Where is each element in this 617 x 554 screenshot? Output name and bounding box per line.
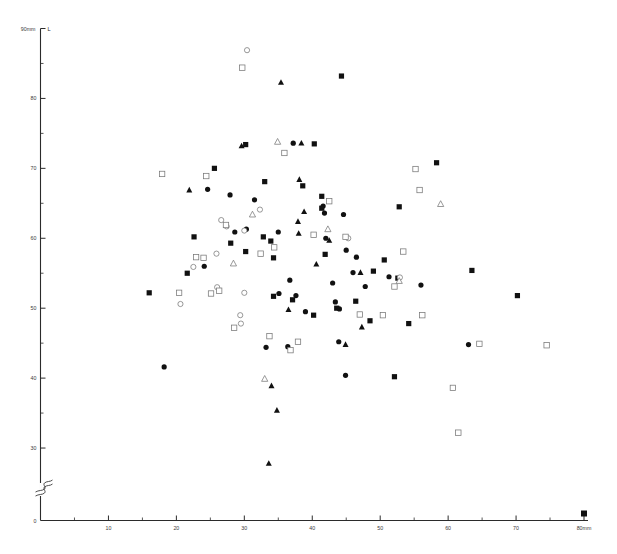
data-point: [178, 301, 183, 306]
series-filled-triangle: [186, 79, 365, 466]
data-point: [238, 313, 243, 318]
series-open-triangle: [230, 138, 443, 381]
data-point: [212, 166, 217, 171]
data-point: [262, 179, 267, 184]
data-point: [392, 284, 397, 289]
data-point: [363, 284, 368, 289]
data-point: [274, 407, 280, 413]
data-point: [243, 142, 248, 147]
data-point: [243, 249, 248, 254]
data-point: [240, 65, 245, 70]
data-point: [420, 312, 425, 317]
y-tick-label: 60: [31, 235, 37, 241]
x-tick-label: 40: [309, 525, 315, 531]
data-point: [336, 339, 341, 344]
data-point: [300, 183, 305, 188]
y-axis-break-symbol-2: [36, 480, 53, 492]
x-tick-label: 30: [241, 525, 247, 531]
data-point: [271, 255, 276, 260]
data-point: [257, 207, 262, 212]
data-point: [313, 261, 319, 267]
data-point: [223, 222, 228, 227]
axis-annotations: L: [36, 26, 588, 517]
data-point: [186, 187, 192, 193]
x-tick-label: 60: [445, 525, 451, 531]
data-point: [344, 248, 349, 253]
x-axis-end-marker: [581, 511, 587, 517]
data-point: [230, 260, 236, 266]
data-point: [242, 228, 247, 233]
data-point: [268, 238, 273, 243]
data-point: [208, 291, 213, 296]
data-point: [272, 245, 277, 250]
data-point: [288, 347, 293, 352]
x-tick-label: 70: [513, 525, 519, 531]
data-point: [353, 299, 358, 304]
data-point: [267, 333, 272, 338]
data-point: [295, 339, 300, 344]
data-point: [401, 249, 406, 254]
data-point: [413, 166, 418, 171]
data-point: [275, 138, 281, 144]
y-tick-label: 70: [31, 165, 37, 171]
origin-label: 0: [34, 518, 37, 524]
data-point: [238, 321, 243, 326]
data-point: [193, 254, 198, 259]
data-point: [515, 293, 520, 298]
data-point: [334, 306, 339, 311]
data-point: [386, 274, 391, 279]
axis-ticks: [41, 29, 585, 521]
data-point: [319, 206, 324, 211]
data-point: [311, 232, 316, 237]
data-point: [311, 313, 316, 318]
y-tick-label: 40: [31, 375, 37, 381]
data-point: [278, 79, 284, 85]
data-point: [296, 230, 302, 236]
data-point: [323, 236, 328, 241]
data-point: [214, 251, 219, 256]
data-point: [252, 197, 257, 202]
data-point: [357, 269, 363, 275]
axis-tick-labels: 30405060708090mm1020304050607080mm0: [21, 26, 592, 531]
data-point: [392, 374, 397, 379]
data-point: [438, 201, 444, 207]
data-point: [228, 241, 233, 246]
data-point: [185, 271, 190, 276]
data-point: [380, 312, 385, 317]
data-point: [276, 291, 281, 296]
data-point: [282, 150, 287, 155]
data-point: [343, 373, 348, 378]
data-point: [242, 290, 247, 295]
data-point: [159, 171, 164, 176]
scatter-plot-figure: 30405060708090mm1020304050607080mm0 L: [0, 0, 617, 554]
data-point: [301, 208, 307, 214]
y-axis-top-label: 90mm: [21, 26, 36, 32]
data-point: [339, 73, 344, 78]
data-point: [231, 325, 236, 330]
data-point: [266, 460, 272, 466]
data-point: [191, 264, 196, 269]
x-tick-label: 50: [377, 525, 383, 531]
data-point: [359, 324, 365, 330]
data-point: [323, 252, 328, 257]
data-point: [325, 226, 331, 232]
data-point: [205, 187, 210, 192]
data-point: [263, 345, 268, 350]
data-point: [343, 234, 348, 239]
data-point: [268, 383, 274, 389]
data-point: [303, 309, 308, 314]
data-point: [296, 176, 302, 182]
data-point: [367, 318, 372, 323]
data-point: [330, 280, 335, 285]
data-markers: [147, 48, 550, 466]
data-point: [466, 342, 471, 347]
data-point: [276, 229, 281, 234]
data-point: [327, 199, 332, 204]
data-point: [258, 251, 263, 256]
data-point: [287, 278, 292, 283]
y-tick-label: 80: [31, 95, 37, 101]
data-point: [333, 299, 338, 304]
data-point: [357, 312, 362, 317]
data-point: [298, 140, 304, 146]
y-axis-series-label: L: [48, 26, 51, 32]
